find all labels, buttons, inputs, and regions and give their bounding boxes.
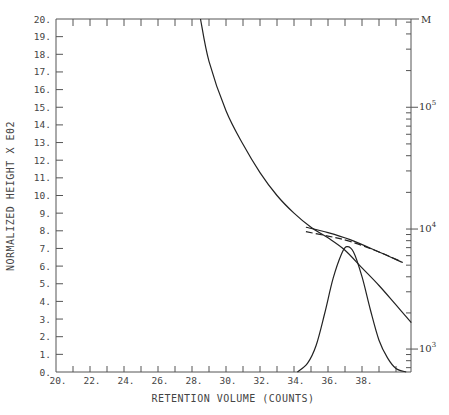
y-tick-label: 18. bbox=[34, 49, 51, 60]
y-tick-label: 8. bbox=[40, 225, 51, 236]
y-tick-label: 10. bbox=[34, 190, 51, 201]
y-axis-title: NORMALIZED HEIGHT X E02 bbox=[5, 121, 16, 271]
y-tick-label: 2. bbox=[40, 331, 51, 342]
x-axis-title: RETENTION VOLUME (COUNTS) bbox=[151, 393, 314, 404]
y-tick-label: 12. bbox=[34, 155, 51, 166]
right-tick-label: 104 bbox=[419, 221, 437, 234]
y-tick-label: 7. bbox=[40, 243, 51, 254]
right-tick-label: 105 bbox=[419, 99, 436, 112]
series-line-3 bbox=[297, 247, 406, 372]
x-tick-label: 30. bbox=[219, 375, 236, 386]
series-line-0 bbox=[201, 19, 412, 323]
y-tick-label: 19. bbox=[34, 31, 51, 42]
series-line-2 bbox=[306, 232, 400, 261]
y-tick-label: 14. bbox=[34, 119, 51, 130]
axes bbox=[56, 19, 411, 372]
x-tick-label: 34. bbox=[287, 375, 304, 386]
y-tick-label: 15. bbox=[34, 102, 51, 113]
y-tick-label: 13. bbox=[34, 137, 51, 148]
y-tick-label: 9. bbox=[40, 208, 51, 219]
x-tick-label: 26. bbox=[151, 375, 168, 386]
y-tick-labels: 0.1.2.3.4.5.6.7.8.9.10.11.12.13.14.15.16… bbox=[34, 14, 51, 378]
x-tick-label: 38. bbox=[355, 375, 372, 386]
x-tick-label: 32. bbox=[253, 375, 270, 386]
x-tick-labels: 20.22.24.26.28.30.32.34.36.38. bbox=[49, 375, 372, 386]
right-tick-label: 103 bbox=[419, 341, 436, 354]
chart-canvas: 0.1.2.3.4.5.6.7.8.9.10.11.12.13.14.15.16… bbox=[0, 0, 449, 415]
x-tick-label: 20. bbox=[49, 375, 66, 386]
x-tick-label: 22. bbox=[83, 375, 100, 386]
y-tick-label: 5. bbox=[40, 278, 51, 289]
right-axis-label: M bbox=[421, 14, 431, 25]
x-tick-label: 24. bbox=[117, 375, 134, 386]
y-tick-label: 6. bbox=[40, 261, 51, 272]
y-tick-label: 16. bbox=[34, 84, 51, 95]
y-tick-label: 11. bbox=[34, 172, 51, 183]
y-tick-label: 3. bbox=[40, 314, 51, 325]
y-tick-label: 4. bbox=[40, 296, 51, 307]
x-tick-label: 36. bbox=[321, 375, 338, 386]
y-tick-label: 17. bbox=[34, 66, 51, 77]
data-series bbox=[201, 19, 412, 372]
x-tick-label: 28. bbox=[185, 375, 202, 386]
y-tick-label: 1. bbox=[40, 349, 51, 360]
y-tick-label: 20. bbox=[34, 14, 51, 25]
